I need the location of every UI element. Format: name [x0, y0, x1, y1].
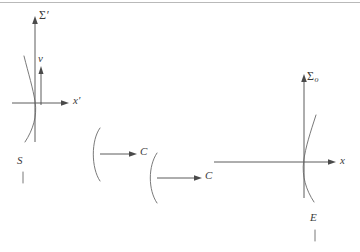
middle-arcs-group — [93, 128, 202, 203]
arc-lower-arrow-arrowhead — [194, 175, 202, 181]
label-velocity-v: v — [38, 53, 43, 64]
x-prime-axis-arrowhead — [61, 100, 69, 106]
sigma-o-axis-arrowhead — [301, 74, 307, 82]
curve-S — [24, 56, 36, 142]
arc-lower — [150, 153, 157, 203]
label-curve-S: S — [17, 155, 23, 166]
arc-upper — [93, 128, 100, 181]
label-sigma-o-glyph: Σ — [307, 69, 314, 83]
arc-upper-arrow-arrowhead — [129, 151, 137, 157]
sigma-prime-axis-arrowhead — [32, 16, 38, 24]
label-sigma-o: Σo — [307, 70, 318, 82]
label-x: x — [340, 155, 345, 166]
label-C-lower: C — [205, 170, 212, 181]
label-sigma-prime-mark: ′ — [46, 8, 49, 22]
label-sigma-prime: Σ′ — [39, 9, 49, 21]
curve-E — [303, 115, 316, 202]
label-sigma-o-subscript: o — [314, 75, 318, 84]
right-frame-group — [214, 74, 336, 241]
label-C-upper: C — [140, 146, 147, 157]
label-curve-E: E — [310, 212, 317, 223]
velocity-arrow-arrowhead — [39, 66, 44, 74]
label-x-prime-mark: ′ — [78, 94, 80, 106]
label-x-prime: x′ — [73, 95, 80, 106]
label-sigma-prime-glyph: Σ — [39, 8, 46, 22]
figure-root: Σ′ v x′ S C C Σo x E — [0, 0, 360, 252]
diagram-canvas — [0, 0, 360, 252]
x-axis-arrowhead — [328, 159, 336, 165]
